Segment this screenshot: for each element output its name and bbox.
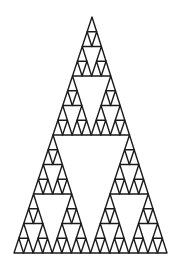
triangle-segment xyxy=(101,61,111,76)
triangle-segment xyxy=(134,165,144,180)
triangle-segment xyxy=(129,179,139,194)
triangle-segment xyxy=(33,209,43,224)
triangle-segment xyxy=(24,209,34,224)
triangle-segment xyxy=(48,135,58,150)
triangle-segment xyxy=(143,194,153,209)
triangle-segment xyxy=(62,209,72,224)
triangle-segment xyxy=(115,224,125,239)
triangle-segment xyxy=(29,194,39,209)
triangle-segment xyxy=(106,76,116,91)
triangle-segment xyxy=(110,120,120,135)
triangle-outlines xyxy=(14,17,167,253)
triangle-segment xyxy=(53,179,63,194)
triangle-segment xyxy=(58,106,68,121)
triangle-segment xyxy=(91,120,101,135)
triangle-segment xyxy=(100,209,110,224)
triangle-segment xyxy=(120,179,130,194)
triangle-segment xyxy=(125,135,135,150)
triangle-segment xyxy=(110,209,120,224)
triangle-segment xyxy=(68,76,78,91)
triangle-segment xyxy=(82,120,92,135)
triangle-segment xyxy=(120,150,130,165)
triangle-segment xyxy=(110,179,120,194)
triangle-segment xyxy=(76,224,86,239)
triangle-segment xyxy=(58,165,68,180)
triangle-segment xyxy=(95,224,105,239)
triangle-segment xyxy=(77,47,87,62)
triangle-segment xyxy=(14,238,24,253)
triangle-segment xyxy=(110,238,120,253)
triangle-segment xyxy=(43,238,53,253)
triangle-segment xyxy=(97,47,107,62)
triangle-segment xyxy=(19,224,29,239)
triangle-segment xyxy=(105,194,115,209)
triangle-segment xyxy=(72,91,82,106)
triangle-segment xyxy=(129,150,139,165)
triangle-segment xyxy=(115,165,125,180)
triangle-segment xyxy=(52,238,62,253)
triangle-segment xyxy=(157,238,167,253)
triangle-segment xyxy=(63,120,73,135)
triangle-segment xyxy=(34,179,44,194)
triangle-segment xyxy=(43,179,53,194)
triangle-segment xyxy=(53,120,63,135)
triangle-segment xyxy=(72,209,82,224)
triangle-segment xyxy=(62,179,72,194)
triangle-segment xyxy=(63,91,73,106)
triangle-segment xyxy=(119,238,129,253)
triangle-segment xyxy=(139,209,149,224)
triangle-segment xyxy=(33,238,43,253)
triangle-segment xyxy=(72,120,82,135)
triangle-segment xyxy=(92,32,102,47)
triangle-segment xyxy=(81,238,91,253)
triangle-segment xyxy=(67,194,77,209)
triangle-segment xyxy=(101,120,111,135)
triangle-segment xyxy=(57,224,67,239)
triangle-segment xyxy=(38,224,48,239)
triangle-segment xyxy=(100,238,110,253)
triangle-segment xyxy=(153,224,163,239)
triangle-segment xyxy=(73,61,83,76)
triangle-segment xyxy=(148,209,158,224)
triangle-segment xyxy=(38,165,48,180)
triangle-segment xyxy=(24,238,34,253)
triangle-segment xyxy=(134,224,144,239)
triangle-segment xyxy=(138,238,148,253)
triangle-segment xyxy=(92,61,102,76)
triangle-segment xyxy=(148,238,158,253)
triangle-segment xyxy=(53,150,63,165)
triangle-segment xyxy=(96,106,106,121)
triangle-segment xyxy=(139,179,149,194)
triangle-segment xyxy=(91,238,101,253)
triangle-segment xyxy=(77,106,87,121)
triangle-segment xyxy=(62,238,72,253)
triangle-segment xyxy=(82,61,92,76)
triangle-segment xyxy=(101,91,111,106)
triangle-segment xyxy=(115,106,125,121)
triangle-segment xyxy=(43,150,53,165)
triangle-segment xyxy=(129,238,139,253)
triangle-segment xyxy=(82,32,92,47)
triangle-segment xyxy=(120,120,130,135)
triangle-segment xyxy=(87,17,97,32)
triangle-segment xyxy=(71,238,81,253)
sierpinski-triangle-diagram xyxy=(0,0,182,274)
triangle-segment xyxy=(111,91,121,106)
figure-canvas xyxy=(0,0,182,274)
